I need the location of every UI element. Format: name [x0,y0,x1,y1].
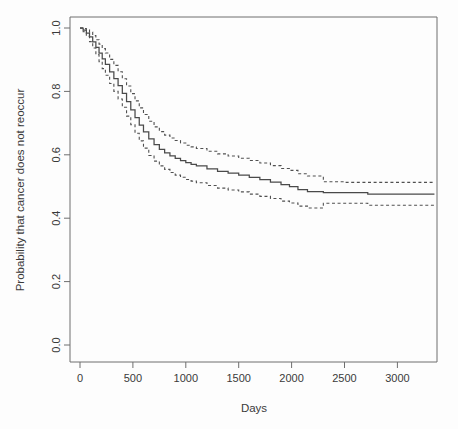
plot-box-border [70,17,437,362]
y-axis-title: Probability that cancer does not reoccur [14,89,26,292]
survival-plot-canvas: 050010001500200025003000 0.00.20.40.60.8… [0,0,458,429]
x-tick-label-2000: 2000 [279,372,303,384]
y-axis-tick-labels: 0.00.20.40.60.81.0 [50,20,62,352]
x-tick-label-0: 0 [77,372,83,384]
y-tick-label-0.0: 0.0 [50,337,62,352]
y-tick-label-0.2: 0.2 [50,274,62,289]
plot-frame [70,17,437,362]
ci-upper-curve [80,28,434,182]
x-tick-label-500: 500 [124,372,142,384]
y-tick-label-0.6: 0.6 [50,147,62,162]
km-estimate-curve [80,28,434,194]
y-tick-label-1.0: 1.0 [50,20,62,35]
ci-lower-curve [80,28,434,208]
x-tick-label-2500: 2500 [332,372,356,384]
x-tick-label-1000: 1000 [174,372,198,384]
y-tick-label-0.8: 0.8 [50,84,62,99]
data-series-layer [80,28,434,208]
x-axis-tick-labels: 050010001500200025003000 [77,372,410,384]
x-axis-title: Days [241,402,267,414]
y-tick-label-0.4: 0.4 [50,211,62,226]
x-tick-label-1500: 1500 [226,372,250,384]
survival-plot-figure: 050010001500200025003000 0.00.20.40.60.8… [0,0,458,429]
y-axis-tick-marks [64,28,70,345]
x-tick-label-3000: 3000 [385,372,409,384]
x-axis-tick-marks [80,362,397,368]
